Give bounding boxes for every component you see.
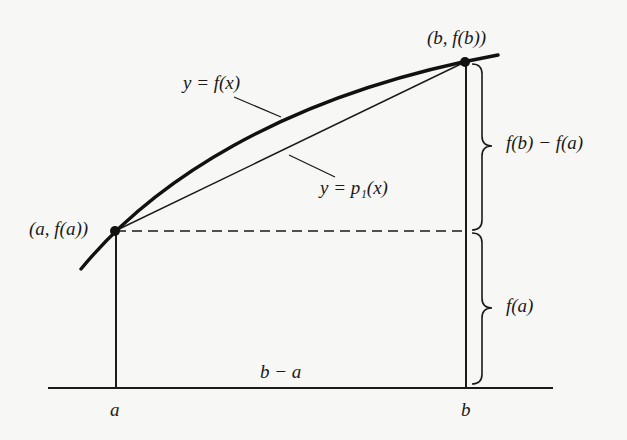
tick-label-b: b bbox=[461, 400, 471, 419]
secant-line-p1 bbox=[115, 62, 465, 231]
label-width: b − a bbox=[260, 362, 301, 381]
diagram-canvas bbox=[0, 0, 627, 440]
label-brace-upper: f(b) − f(a) bbox=[506, 133, 583, 152]
point-a-dot bbox=[110, 226, 120, 236]
tick-label-a: a bbox=[110, 400, 120, 419]
brace-upper bbox=[472, 64, 492, 230]
label-point-a: (a, f(a)) bbox=[29, 219, 88, 238]
label-curve: y = f(x) bbox=[183, 73, 240, 92]
label-secant: y = p₁(x) bbox=[320, 178, 388, 197]
pointer-secant-label bbox=[289, 155, 335, 177]
curve-f bbox=[81, 55, 498, 269]
point-b-dot bbox=[460, 57, 470, 67]
brace-lower bbox=[472, 233, 492, 384]
pointer-curve-label bbox=[234, 97, 281, 117]
label-point-b: (b, f(b)) bbox=[427, 28, 486, 47]
label-brace-lower: f(a) bbox=[506, 296, 533, 315]
